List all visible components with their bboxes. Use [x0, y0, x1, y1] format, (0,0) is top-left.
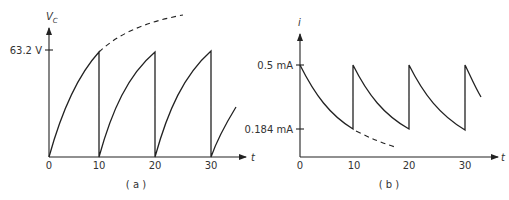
caption-b: ( b ) — [379, 179, 400, 190]
figure-b: i 0.5 mA 0.184 mA t 0 10 20 30 ( b ) — [245, 17, 506, 190]
x-tick-30-a: 30 — [205, 160, 218, 171]
y-tick-label-a: 63.2 V — [10, 45, 42, 56]
vc-dashed-continuation — [99, 15, 183, 52]
x-tick-20-b: 20 — [403, 160, 416, 171]
figure-a: VC 63.2 V t 0 10 20 30 ( a ) — [10, 11, 256, 190]
y-label-a: VC — [46, 11, 58, 25]
x-tick-10-b: 10 — [348, 160, 361, 171]
x-label-a: t — [251, 152, 256, 163]
y-tick-low-label-b: 0.184 mA — [245, 124, 294, 135]
x-tick-20-a: 20 — [149, 160, 162, 171]
current-curve — [300, 65, 481, 130]
caption-a: ( a ) — [126, 179, 146, 190]
x-tick-30-b: 30 — [459, 160, 472, 171]
x-label-b: t — [501, 152, 506, 163]
current-dashed-continuation — [356, 131, 395, 147]
diagram-canvas: VC 63.2 V t 0 10 20 30 ( a ) i 0.5 mA 0.… — [0, 0, 509, 200]
y-label-b: i — [298, 17, 301, 28]
x-tick-0-b: 0 — [297, 160, 303, 171]
vc-curve — [49, 51, 236, 157]
y-tick-high-label-b: 0.5 mA — [257, 60, 293, 71]
x-tick-10-a: 10 — [93, 160, 106, 171]
x-tick-0-a: 0 — [46, 160, 52, 171]
